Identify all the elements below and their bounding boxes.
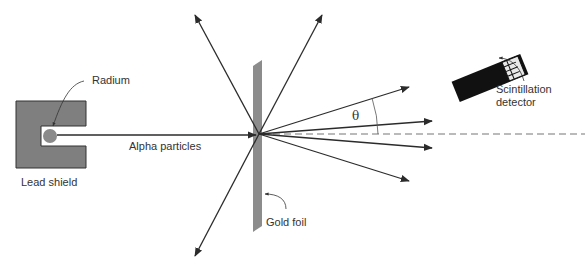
detector-label-line2: detector: [496, 96, 536, 109]
gold-foil: [253, 60, 262, 232]
lead-shield-label: Lead shield: [21, 176, 77, 189]
radium-source: [43, 129, 57, 143]
theta-arc: [372, 98, 378, 134]
gold-foil-callout-line: [265, 194, 286, 209]
alpha-particles-label: Alpha particles: [129, 140, 201, 153]
trajectory-small-down: [259, 134, 432, 148]
radium-label: Radium: [92, 74, 130, 87]
trajectory-up: [259, 15, 322, 134]
detector-label-line1: Scintillation: [496, 83, 552, 96]
trajectory-back-down: [195, 134, 259, 256]
trajectory-theta: [259, 87, 409, 134]
trajectory-down: [259, 134, 409, 181]
trajectory-back-up: [195, 15, 259, 134]
gold-foil-label: Gold foil: [266, 216, 306, 229]
trajectory-small-up: [259, 121, 432, 134]
theta-symbol: θ: [352, 110, 359, 123]
